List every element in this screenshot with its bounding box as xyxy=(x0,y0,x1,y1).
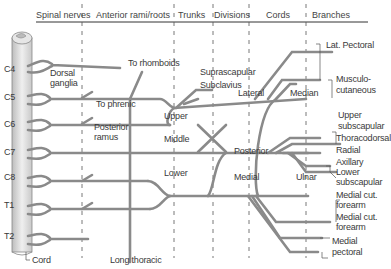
branch-upper-sub: Upper xyxy=(338,110,362,120)
branch-forearm-1: forearm xyxy=(336,200,366,210)
branch-musculo: Musculo- xyxy=(336,74,371,84)
branch-radial: Radial xyxy=(336,145,360,155)
label-long-thoracic: Long thoracic xyxy=(110,255,161,265)
label-to-rhomboids: To rhomboids xyxy=(128,58,180,68)
branch-upper-subscapular: subscapular xyxy=(338,121,384,131)
branch-medial-pec: Medial xyxy=(332,236,357,246)
branch-medial-cut-2: Medial cut. xyxy=(336,212,377,222)
branch-subclavius: Subclavius xyxy=(200,80,242,90)
level-t2: T2 xyxy=(4,231,14,241)
branch-thoracodorsal: Thoracodorsal xyxy=(336,133,391,143)
cord-lateral: Lateral xyxy=(238,88,264,98)
branch-lower-sub: Lower xyxy=(336,167,360,177)
branch-suprascapular: Suprascapular xyxy=(200,67,255,77)
level-t1: T1 xyxy=(4,200,14,210)
header-anterior-rami: Anterior rami/roots xyxy=(96,10,170,20)
terminal-ulnar: Ulnar xyxy=(296,172,317,182)
label-ramus: ramus xyxy=(94,132,118,142)
header-branches: Branches xyxy=(312,10,350,20)
label-cord: Cord xyxy=(32,255,51,265)
level-c4: C4 xyxy=(4,64,15,74)
label-posterior: Posterior xyxy=(94,122,128,132)
trunk-upper: Upper xyxy=(164,111,188,121)
header-trunks: Trunks xyxy=(178,10,205,20)
branch-axillary: Axillary xyxy=(336,157,363,167)
level-c8: C8 xyxy=(4,172,15,182)
cord-posterior: Posterior xyxy=(234,146,268,156)
header-divisions: Divisions xyxy=(214,10,250,20)
branch-medial-cut-1: Medial cut. xyxy=(336,190,377,200)
header-spinal-nerves: Spinal nerves xyxy=(36,10,91,20)
branch-pectoral: pectoral xyxy=(332,247,362,257)
label-to-phrenic: To phrenic xyxy=(96,99,136,109)
branch-forearm-2: forearm xyxy=(336,222,366,232)
cord-medial: Medial xyxy=(234,172,259,182)
terminal-median: Median xyxy=(290,88,318,98)
trunk-middle: Middle xyxy=(164,134,189,144)
branch-lower-subscapular: subscapular xyxy=(336,177,382,187)
branch-cutaneous: cutaneous xyxy=(336,85,376,95)
trunk-lower: Lower xyxy=(164,168,188,178)
label-dorsal: Dorsal xyxy=(50,68,75,78)
level-c7: C7 xyxy=(4,147,15,157)
level-c5: C5 xyxy=(4,92,15,102)
label-ganglia: ganglia xyxy=(50,78,78,88)
level-c6: C6 xyxy=(4,119,15,129)
header-cords: Cords xyxy=(266,10,290,20)
branch-lat-pectoral: Lat. Pectoral xyxy=(326,40,374,50)
